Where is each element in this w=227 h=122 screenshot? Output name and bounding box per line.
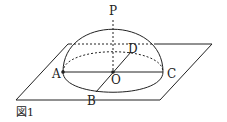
label-d: D <box>128 42 138 56</box>
figure-caption: 図1 <box>16 106 34 119</box>
label-a: A <box>51 67 61 81</box>
point-a-dot <box>61 70 65 74</box>
label-b: B <box>87 94 96 108</box>
label-o: O <box>111 73 121 87</box>
label-p: P <box>109 4 117 18</box>
hemisphere-diagram: P D A O C B 図1 <box>0 0 227 122</box>
label-c: C <box>167 67 176 81</box>
